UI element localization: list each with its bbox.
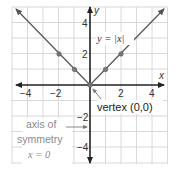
tick-label-x: −2 [50,88,62,99]
tick-label-y: −4 [77,142,89,153]
point-neg2-2 [57,52,62,57]
absolute-value-graph: −4 −2 2 4 4 2 −2 −4 x y y = |x| vertex (… [0,0,181,174]
tick-label-y: 4 [82,18,88,29]
y-axis-label: y [93,5,100,16]
point-2-2 [119,52,124,57]
point-0-0 [88,83,93,88]
axis-of-symmetry-label-line3: x = 0 [27,149,51,160]
x-axis-label: x [158,70,165,81]
tick-label-y: −2 [77,112,89,123]
point-neg1-1 [72,67,77,72]
point-1-1 [103,67,108,72]
vertex-label: vertex (0,0) [97,101,153,113]
tick-label-x: −4 [20,88,32,99]
vertex-pointer [93,89,101,99]
tick-label-x: 2 [118,88,124,99]
tick-label-y: 2 [82,49,88,60]
axis-of-symmetry-label-line2: symmetry [17,133,63,145]
function-label: y = |x| [96,33,124,44]
axis-of-symmetry-label-line1: axis of [26,118,56,130]
tick-label-x: 4 [149,88,155,99]
